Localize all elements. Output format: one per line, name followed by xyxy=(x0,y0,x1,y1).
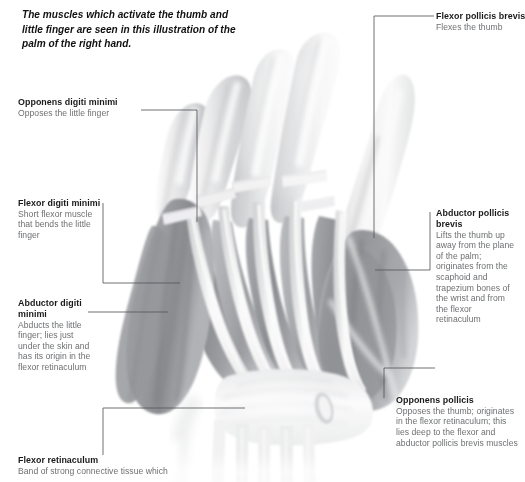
label-flexor-pollicis-brevis: Flexor pollicis brevis Flexes the thumb xyxy=(436,11,522,32)
label-abductor-pollicis-brevis-desc: Lifts the thumb up away from the plane o… xyxy=(436,230,518,325)
label-opponens-pollicis-title: Opponens pollicis xyxy=(396,395,518,406)
label-abductor-digiti-minimi: Abductor digiti minimi Abducts the littl… xyxy=(18,298,98,373)
label-abductor-pollicis-brevis-title: Abductor pollicis brevis xyxy=(436,208,518,230)
label-abductor-digiti-minimi-desc: Abducts the little finger; lies just und… xyxy=(18,320,98,373)
label-flexor-digiti-minimi: Flexor digiti minimi Short flexor muscle… xyxy=(18,198,106,241)
label-flexor-pollicis-brevis-title: Flexor pollicis brevis xyxy=(436,11,522,22)
label-flexor-retinaculum: Flexor retinaculum Band of strong connec… xyxy=(18,455,248,476)
label-abductor-digiti-minimi-title: Abductor digiti minimi xyxy=(18,298,98,320)
label-flexor-pollicis-brevis-desc: Flexes the thumb xyxy=(436,22,522,33)
label-flexor-digiti-minimi-desc: Short flexor muscle that bends the littl… xyxy=(18,209,106,241)
label-flexor-retinaculum-desc: Band of strong connective tissue which xyxy=(18,466,248,477)
label-opponens-pollicis: Opponens pollicis Opposes the thumb; ori… xyxy=(396,395,518,448)
intro-caption: The muscles which activate the thumb and… xyxy=(22,8,237,52)
label-opponens-digiti-minimi-desc: Opposes the little finger xyxy=(18,108,158,119)
label-flexor-digiti-minimi-title: Flexor digiti minimi xyxy=(18,198,106,209)
label-flexor-retinaculum-title: Flexor retinaculum xyxy=(18,455,248,466)
label-opponens-digiti-minimi: Opponens digiti minimi Opposes the littl… xyxy=(18,97,158,118)
label-opponens-digiti-minimi-title: Opponens digiti minimi xyxy=(18,97,158,108)
label-opponens-pollicis-desc: Opposes the thumb; originates in the fle… xyxy=(396,406,518,448)
label-abductor-pollicis-brevis: Abductor pollicis brevis Lifts the thumb… xyxy=(436,208,518,325)
